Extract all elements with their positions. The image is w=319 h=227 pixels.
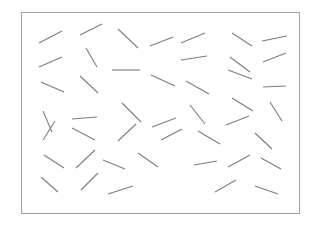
stimulus-field-border (22, 13, 300, 214)
stimulus-canvas (0, 0, 319, 227)
line-orientation-field (0, 0, 319, 227)
